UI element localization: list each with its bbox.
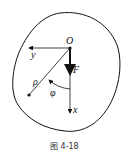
body-outline: [13, 13, 120, 132]
angle-label: φ: [50, 87, 56, 98]
figure-caption: 图 4-18: [50, 142, 79, 151]
diagram-canvas: O y F x ρ φ 图 4-18: [0, 0, 130, 155]
x-axis-label: x: [72, 104, 78, 115]
radius-label: ρ: [32, 76, 38, 87]
y-axis-label: y: [30, 49, 36, 60]
origin-label: O: [66, 35, 73, 46]
force-label: F: [72, 64, 80, 75]
mass-point: [27, 93, 30, 96]
